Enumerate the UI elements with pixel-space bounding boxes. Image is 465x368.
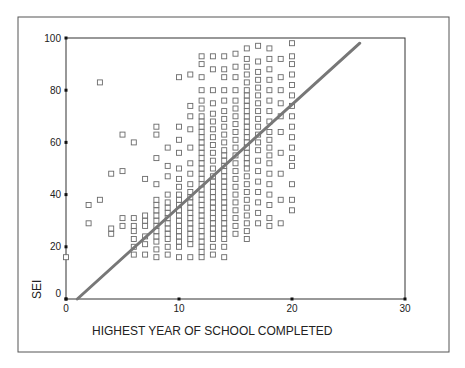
- data-point: [233, 114, 238, 119]
- y-tick-label: 100: [44, 33, 61, 44]
- data-point: [256, 93, 261, 98]
- data-point: [210, 231, 215, 236]
- data-point: [267, 153, 272, 158]
- data-point: [290, 54, 295, 59]
- data-point: [177, 192, 182, 197]
- data-point: [222, 88, 227, 93]
- data-point: [256, 77, 261, 82]
- data-point: [233, 122, 238, 127]
- data-point: [154, 203, 159, 208]
- y-tick-label: 60: [50, 137, 62, 148]
- data-point: [154, 255, 159, 260]
- data-point: [199, 135, 204, 140]
- data-point: [177, 244, 182, 249]
- data-point: [165, 174, 170, 179]
- data-point: [199, 62, 204, 67]
- data-point: [278, 221, 283, 226]
- data-point: [290, 124, 295, 129]
- data-point: [222, 221, 227, 226]
- data-point: [177, 213, 182, 218]
- data-point: [199, 255, 204, 260]
- data-point: [210, 111, 215, 116]
- data-point: [290, 114, 295, 119]
- data-point: [290, 182, 295, 187]
- data-point: [244, 93, 249, 98]
- data-point: [199, 166, 204, 171]
- data-point: [143, 223, 148, 228]
- data-point: [131, 140, 136, 145]
- data-point: [210, 143, 215, 148]
- data-point: [199, 197, 204, 202]
- data-point: [256, 43, 261, 48]
- data-point: [154, 239, 159, 244]
- data-point: [267, 98, 272, 103]
- data-point: [244, 56, 249, 61]
- data-point: [177, 137, 182, 142]
- data-point: [199, 98, 204, 103]
- data-point: [131, 237, 136, 242]
- data-point: [233, 51, 238, 56]
- data-point: [210, 190, 215, 195]
- data-point: [222, 67, 227, 72]
- data-point: [165, 221, 170, 226]
- y-tick-mark: [65, 89, 68, 92]
- data-point: [222, 174, 227, 179]
- data-point: [267, 223, 272, 228]
- data-point: [199, 213, 204, 218]
- data-point: [222, 216, 227, 221]
- data-point: [244, 174, 249, 179]
- data-point: [188, 231, 193, 236]
- data-point: [199, 88, 204, 93]
- data-point: [165, 145, 170, 150]
- y-axis-title: SEI: [30, 280, 44, 299]
- data-point: [199, 54, 204, 59]
- data-point: [233, 145, 238, 150]
- data-point: [244, 166, 249, 171]
- data-point: [222, 153, 227, 158]
- data-point: [177, 150, 182, 155]
- data-point: [143, 252, 148, 257]
- data-point: [154, 234, 159, 239]
- data-point: [267, 203, 272, 208]
- data-point: [267, 109, 272, 114]
- data-point: [278, 171, 283, 176]
- data-point: [290, 156, 295, 161]
- data-point: [278, 197, 283, 202]
- data-point: [233, 223, 238, 228]
- data-point: [256, 101, 261, 106]
- data-point: [278, 88, 283, 93]
- data-point: [199, 130, 204, 135]
- data-point: [290, 163, 295, 168]
- data-point: [64, 255, 69, 260]
- data-point: [256, 200, 261, 205]
- data-point: [244, 88, 249, 93]
- data-point: [199, 75, 204, 80]
- data-point: [210, 179, 215, 184]
- data-point: [222, 109, 227, 114]
- y-tick-mark: [65, 37, 68, 40]
- data-point: [244, 161, 249, 166]
- data-point: [222, 237, 227, 242]
- x-tick-label: 0: [63, 303, 69, 314]
- data-point: [267, 137, 272, 142]
- data-point: [188, 242, 193, 247]
- data-point: [222, 226, 227, 231]
- data-point: [222, 132, 227, 137]
- data-point: [188, 216, 193, 221]
- data-point: [244, 150, 249, 155]
- data-point: [199, 119, 204, 124]
- data-point: [210, 221, 215, 226]
- data-point: [222, 124, 227, 129]
- data-point: [210, 88, 215, 93]
- data-point: [177, 239, 182, 244]
- x-tick-mark: [291, 298, 294, 301]
- data-point: [244, 98, 249, 103]
- data-point: [222, 116, 227, 121]
- data-point: [109, 226, 114, 231]
- data-point: [290, 83, 295, 88]
- data-point: [244, 205, 249, 210]
- data-point: [131, 229, 136, 234]
- data-point: [177, 218, 182, 223]
- data-point: [188, 210, 193, 215]
- data-point: [188, 127, 193, 132]
